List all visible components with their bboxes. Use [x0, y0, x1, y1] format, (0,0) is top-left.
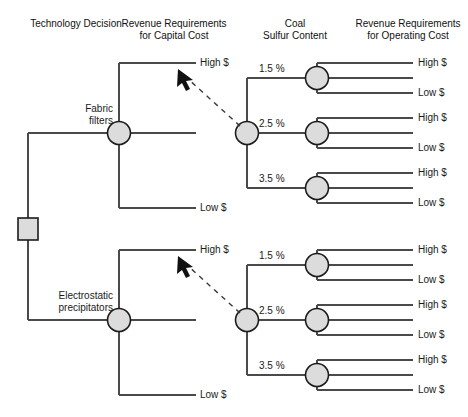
chance-node-operating-bot-b	[306, 309, 329, 332]
alternative-label-line2: precipitators	[29, 302, 113, 314]
chance-node-operating-bot-a	[306, 254, 329, 277]
sulfur-label-35-top: 3.5 %	[259, 173, 285, 185]
alternative-label-electrostatic-precipitators: Electrostatic precipitators	[29, 290, 113, 313]
capital-outcome-low-top: Low $	[200, 202, 227, 214]
alternative-label-line1: Fabric	[45, 103, 113, 115]
sulfur-label-15-bot: 1.5 %	[259, 250, 285, 262]
lower-link-arrow-shaft	[187, 265, 240, 313]
chance-node-operating-bot-c	[306, 364, 329, 387]
tree-graphics	[0, 0, 468, 417]
capital-outcome-low-bot: Low $	[200, 389, 227, 401]
alternative-label-line1: Electrostatic	[29, 290, 113, 302]
alternative-label-line2: filters	[45, 115, 113, 127]
upper-link-arrow-shaft	[187, 78, 240, 126]
operating-outcome-low-top-b: Low $	[418, 142, 445, 154]
operating-outcome-high-bot-c: High $	[418, 354, 447, 366]
sulfur-label-25-top: 2.5 %	[259, 118, 285, 130]
operating-outcome-high-top-c: High $	[418, 167, 447, 179]
chance-node-operating-top-a	[306, 67, 329, 90]
operating-outcome-high-top-b: High $	[418, 112, 447, 124]
chance-node-operating-top-c	[306, 177, 329, 200]
operating-outcome-low-top-c: Low $	[418, 197, 445, 209]
operating-outcome-low-bot-b: Low $	[418, 329, 445, 341]
operating-outcome-low-bot-c: Low $	[418, 384, 445, 396]
decision-node-square	[18, 218, 38, 240]
lower-link-arrowhead	[177, 256, 193, 278]
sulfur-label-25-bot: 2.5 %	[259, 305, 285, 317]
operating-outcome-low-top-a: Low $	[418, 87, 445, 99]
alternative-label-fabric-filters: Fabric filters	[45, 103, 113, 126]
operating-outcome-high-bot-a: High $	[418, 244, 447, 256]
capital-outcome-high-bot: High $	[200, 244, 229, 256]
sulfur-label-15-top: 1.5 %	[259, 63, 285, 75]
operating-outcome-high-bot-b: High $	[418, 299, 447, 311]
upper-link-arrowhead	[177, 69, 193, 91]
operating-outcome-low-bot-a: Low $	[418, 274, 445, 286]
decision-tree-diagram: Technology Decision Revenue Requirements…	[0, 0, 468, 417]
sulfur-label-35-bot: 3.5 %	[259, 360, 285, 372]
capital-outcome-high-top: High $	[200, 57, 229, 69]
operating-outcome-high-top-a: High $	[418, 57, 447, 69]
chance-node-operating-top-b	[306, 122, 329, 145]
